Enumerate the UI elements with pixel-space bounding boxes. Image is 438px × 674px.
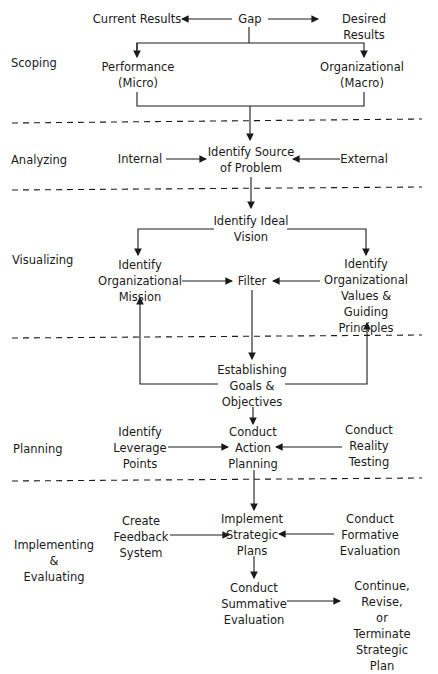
- node-filter: Filter: [238, 273, 266, 289]
- node-organizational-macro: Organizational (Macro): [320, 59, 404, 91]
- node-establishing-goals-objectives: Establishing Goals & Objectives: [217, 362, 287, 410]
- node-conduct-formative-evaluation: Conduct Formative Evaluation: [340, 511, 401, 559]
- phase-scoping: Scoping: [11, 55, 57, 71]
- node-conduct-action-planning: Conduct Action Planning: [228, 424, 278, 472]
- node-create-feedback-system: Create Feedback System: [114, 513, 169, 561]
- node-desired-results: Desired Results: [327, 11, 401, 43]
- node-implement-strategic-plans: Implement Strategic Plans: [221, 511, 283, 559]
- node-identify-leverage-points: Identify Leverage Points: [113, 424, 166, 472]
- phase-analyzing: Analyzing: [11, 152, 67, 168]
- phase-implementing-evaluating: Implementing & Evaluating: [14, 537, 94, 585]
- node-identify-ideal-vision: Identify Ideal Vision: [213, 213, 288, 245]
- node-external: External: [340, 151, 388, 167]
- node-conduct-summative-evaluation: Conduct Summative Evaluation: [221, 580, 287, 628]
- node-identify-organizational-values: Identify Organizational Values & Guiding…: [324, 256, 408, 336]
- node-performance-micro: Performance (Micro): [102, 59, 175, 91]
- node-identify-source-of-problem: Identify Source of Problem: [208, 144, 295, 176]
- node-identify-organizational-mission: Identify Organizational Mission: [98, 257, 182, 305]
- node-current-results: Current Results: [93, 11, 181, 27]
- phase-planning: Planning: [13, 441, 63, 457]
- node-internal: Internal: [118, 151, 162, 167]
- phase-visualizing: Visualizing: [12, 252, 73, 268]
- node-continue-revise-terminate: Continue, Revise, or Terminate Strategic…: [354, 578, 411, 674]
- node-conduct-reality-testing: Conduct Reality Testing: [345, 422, 393, 470]
- node-gap: Gap: [238, 11, 261, 27]
